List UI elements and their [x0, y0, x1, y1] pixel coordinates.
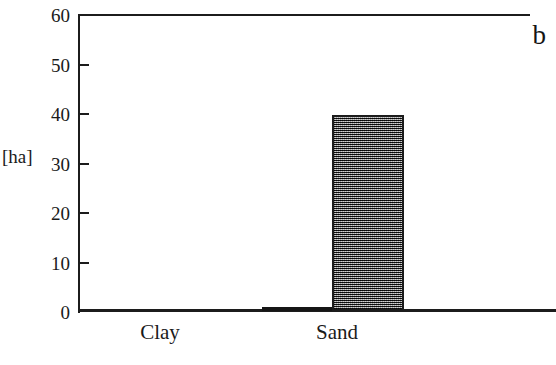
y-tick-label-40: 40 [10, 105, 70, 124]
chart-figure: b [ha] 60 50 40 30 20 10 0 Clay Sand [0, 0, 556, 365]
bar-clay[interactable] [262, 307, 332, 311]
y-tick-label-60: 60 [10, 6, 70, 25]
y-tick-label-50: 50 [10, 56, 70, 75]
y-tick-label-0: 0 [10, 303, 70, 322]
y-tick-label-10: 10 [10, 254, 70, 273]
panel-label: b [533, 22, 547, 49]
plot-area [80, 14, 530, 311]
x-tick-label-sand: Sand [316, 322, 358, 343]
x-tick-label-clay: Clay [140, 322, 180, 343]
y-tick-label-20: 20 [10, 204, 70, 223]
bar-sand[interactable] [332, 115, 404, 311]
y-tick-label-30: 30 [10, 155, 70, 174]
